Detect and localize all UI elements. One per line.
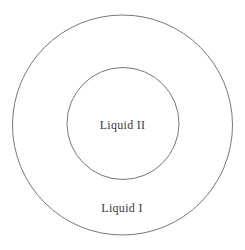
outer-ring-label: Liquid I: [101, 201, 142, 215]
diagram-canvas: Liquid II Liquid I: [0, 0, 245, 250]
inner-circle-label: Liquid II: [100, 118, 146, 132]
concentric-circles-diagram: Liquid II Liquid I: [0, 0, 245, 250]
